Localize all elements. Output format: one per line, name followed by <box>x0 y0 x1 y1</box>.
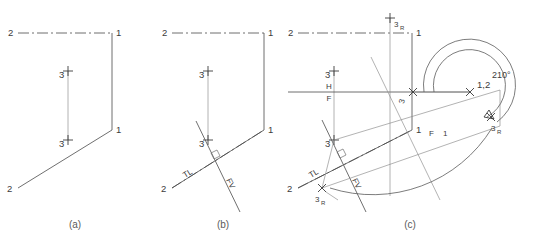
panel-a-plus-3-bottom <box>63 135 73 145</box>
panel-c-label-angle: 210° <box>492 70 511 80</box>
panel-a-label-2-bottom: 2 <box>7 183 12 194</box>
panel-b-label-fv: FV <box>224 177 237 191</box>
caption-b: (b) <box>217 219 229 230</box>
panel-b-label-1-top: 1 <box>268 27 273 38</box>
panel-c-label-3-top: 3 <box>325 69 330 80</box>
panel-c-label-3r-top: 3 <box>394 20 399 29</box>
panel-c-label-f: F <box>327 94 332 103</box>
panel-c-label-2-bottom: 2 <box>287 183 292 194</box>
panel-a-label-1-top: 1 <box>116 27 121 38</box>
figure-root: 2 1 1 2 3 3 (a) 2 1 1 2 3 3 TL FV (b) <box>0 0 537 245</box>
panel-c-label-3r-top-sub: R <box>400 25 405 31</box>
panel-c-label-3r-right: 3 <box>491 124 496 133</box>
panel-b-label-2-top: 2 <box>162 27 167 38</box>
descriptive-geometry-drawing: 2 1 1 2 3 3 (a) 2 1 1 2 3 3 TL FV (b) <box>0 0 537 245</box>
panel-b-geometry <box>172 33 264 212</box>
panel-a-labels: 2 1 1 2 3 3 (a) <box>7 27 121 230</box>
panel-b-label-2-bottom: 2 <box>161 183 166 194</box>
panel-a-geometry <box>18 33 112 188</box>
panel-a-label-1-mid: 1 <box>116 124 121 135</box>
panel-b-labels: 2 1 1 2 3 3 TL FV (b) <box>161 27 273 230</box>
panel-c-label-h: H <box>326 82 332 91</box>
panel-a-label-3-bottom: 3 <box>59 138 64 149</box>
panel-c-label-fold-f: F <box>429 129 434 138</box>
panel-c-label-fold-1: 1 <box>443 129 448 138</box>
panel-b-label-3-bottom: 3 <box>199 138 204 149</box>
panel-c-label-1-mid: 1 <box>416 124 421 135</box>
panel-c-label-3r-bottom: 3 <box>315 195 320 204</box>
caption-a: (a) <box>69 219 81 230</box>
panel-c-label-3-bottom: 3 <box>325 138 330 149</box>
panel-c-label-1-2: 1,2 <box>477 79 490 90</box>
panel-a-plus-3-top <box>63 66 73 76</box>
panel-b-plus-3-top <box>203 66 213 76</box>
panel-b-fv-perpendicular <box>196 121 240 212</box>
panel-c-fv-perpendicular <box>322 120 366 212</box>
panel-b-label-3-top: 3 <box>199 69 204 80</box>
panel-c-x-mark-3r-bottom <box>318 184 326 192</box>
panel-c-geometry <box>288 13 515 212</box>
panel-a-label-2-top: 2 <box>8 27 13 38</box>
panel-c-labels: 2 1 1 2 3 3 H F F 1 3 1,2 210° TL FV 3 R… <box>287 20 511 230</box>
panel-c-label-3-center: 3 <box>397 98 407 105</box>
panel-a-label-3-top: 3 <box>59 69 64 80</box>
panel-b-label-1-mid: 1 <box>268 124 273 135</box>
panel-c-leader-3r-bottom <box>326 192 338 200</box>
panel-a-line-1-2-oblique <box>18 130 112 188</box>
panel-c-plus-3-top <box>329 66 339 76</box>
panel-b-label-tl: TL <box>181 167 194 180</box>
panel-c-label-1-top: 1 <box>416 27 421 38</box>
panel-b-plus-3-bottom <box>203 135 213 145</box>
panel-c-label-3r-right-sub: R <box>497 129 502 135</box>
panel-c-label-fv: FV <box>350 177 363 191</box>
panel-c-rotation-arc-outer <box>423 39 515 122</box>
panel-c-label-2-top: 2 <box>288 27 293 38</box>
panel-c-label-3r-bottom-sub: R <box>321 200 326 206</box>
caption-c: (c) <box>404 219 416 230</box>
